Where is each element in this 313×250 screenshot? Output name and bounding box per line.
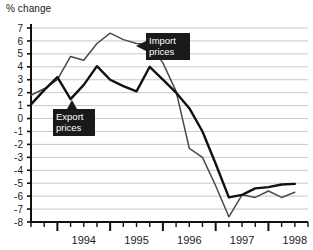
x-tick-label: 1998 [283, 234, 307, 246]
export-callout-label-line1: Export [56, 111, 84, 122]
y-tick-label: -8 [14, 217, 23, 228]
chart-canvas: 76543210-1-2-3-4-5-6-7-8 199419951996199… [0, 0, 313, 250]
y-tick-label: -4 [14, 165, 23, 176]
y-tick-label: -2 [14, 139, 23, 150]
x-tick-label: 1997 [230, 234, 254, 246]
x-tick-label: 1996 [177, 234, 201, 246]
y-tick-label: 5 [17, 48, 23, 59]
y-tick-label: 4 [17, 61, 23, 72]
import-callout-label-line1: Import [149, 35, 176, 46]
import-prices-callout: Import prices [136, 33, 190, 60]
y-tick-label: -6 [14, 191, 23, 202]
y-tick-label: 3 [17, 74, 23, 85]
x-axis-tick-marks [31, 222, 308, 231]
y-tick-label: -7 [14, 204, 23, 215]
export-callout-label-line2: prices [56, 122, 82, 133]
y-tick-label: 6 [17, 36, 23, 47]
price-change-line-chart: % change 76543210-1-2-3-4-5-6-7-8 199419… [0, 0, 313, 250]
y-tick-label: 2 [17, 87, 23, 98]
y-axis-tick-labels: 76543210-1-2-3-4-5-6-7-8 [14, 23, 23, 228]
y-axis-title: % change [6, 3, 51, 14]
y-tick-label: 0 [17, 113, 23, 124]
y-tick-label: 7 [17, 23, 23, 34]
y-tick-label: -1 [14, 126, 23, 137]
y-tick-label: 1 [17, 100, 23, 111]
import-callout-label-line2: prices [149, 46, 175, 57]
import-callout-arrow-icon [136, 41, 146, 51]
y-tick-label: -5 [14, 178, 23, 189]
x-tick-label: 1995 [124, 234, 148, 246]
x-axis-tick-labels: 19941995199619971998 [72, 234, 308, 246]
x-tick-label: 1994 [72, 234, 96, 246]
y-tick-label: -3 [14, 152, 23, 163]
export-callout-arrow-icon [67, 100, 77, 109]
